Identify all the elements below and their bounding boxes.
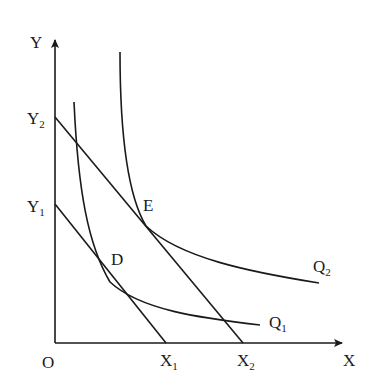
isocost-line-2 [55, 117, 243, 343]
isocost-line-1 [55, 204, 166, 343]
q2-label: Q2 [313, 257, 331, 278]
origin-label: O [42, 353, 54, 372]
isoquant-diagram: Y X O Y2 Y1 X1 X2 Q1 Q2 D E [0, 0, 379, 392]
y1-label: Y1 [27, 197, 45, 218]
isoquant-q1 [74, 102, 260, 325]
x2-label: X2 [237, 351, 255, 372]
y-axis-label: Y [30, 33, 42, 52]
point-d-label: D [111, 250, 123, 269]
x-axis-label: X [343, 351, 355, 370]
y2-label: Y2 [27, 109, 45, 130]
x1-label: X1 [160, 351, 178, 372]
q1-label: Q1 [269, 313, 287, 334]
point-e-label: E [143, 196, 153, 215]
isoquant-q2 [120, 52, 319, 283]
